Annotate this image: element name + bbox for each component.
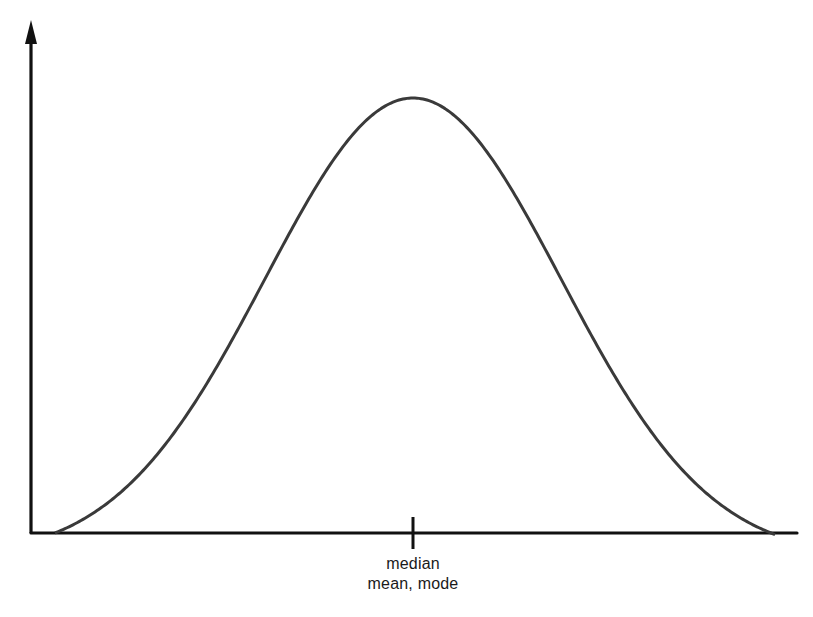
normal-distribution-diagram bbox=[0, 0, 813, 617]
bell-curve bbox=[55, 98, 775, 535]
median-label: median bbox=[313, 554, 513, 574]
y-axis-arrow-icon bbox=[25, 20, 37, 44]
mean-mode-label: mean, mode bbox=[313, 574, 513, 594]
